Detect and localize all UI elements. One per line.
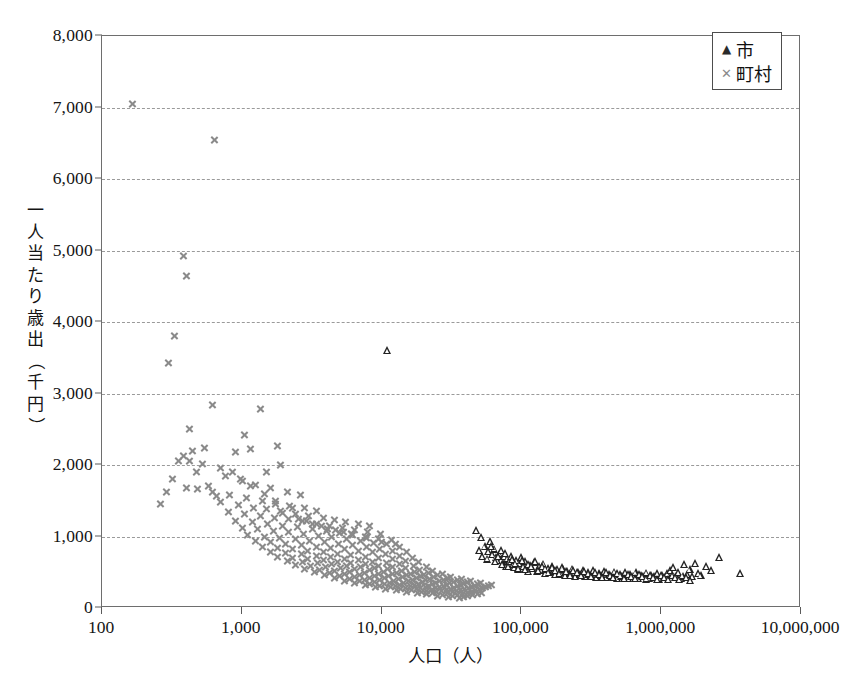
- data-point-shi: [516, 567, 524, 575]
- y-axis-title-char: ）: [24, 413, 46, 439]
- data-point-choson: [428, 566, 437, 575]
- data-point-shi: [667, 574, 675, 582]
- data-point-shi: [479, 560, 487, 568]
- data-point-choson: [360, 568, 369, 577]
- data-point-choson: [208, 400, 217, 409]
- y-axis-title-char: 歳: [22, 308, 48, 330]
- data-point-shi: [639, 580, 647, 588]
- data-point-shi: [669, 571, 677, 579]
- data-point-choson: [400, 583, 409, 592]
- data-point-choson: [258, 496, 267, 505]
- data-point-shi: [556, 576, 564, 584]
- data-point-choson: [383, 572, 392, 581]
- legend-label-choson: 町村: [735, 60, 772, 86]
- data-point-shi: [488, 558, 496, 566]
- data-point-choson: [300, 503, 309, 512]
- gridline: [102, 322, 799, 323]
- data-point-choson: [376, 537, 385, 546]
- data-point-shi: [664, 577, 672, 585]
- data-point-choson: [374, 561, 383, 570]
- data-point-choson: [408, 553, 417, 562]
- data-point-shi: [531, 565, 539, 573]
- data-point-choson: [168, 475, 177, 484]
- data-point-choson: [305, 536, 314, 545]
- data-point-shi: [632, 582, 640, 590]
- data-point-shi: [686, 573, 694, 581]
- data-point-choson: [281, 539, 290, 548]
- data-point-shi: [511, 571, 519, 579]
- data-point-shi: [572, 580, 580, 588]
- data-point-choson: [362, 543, 371, 552]
- x-tick-label: 100: [88, 617, 114, 638]
- data-point-shi: [526, 569, 534, 577]
- data-point-shi: [549, 571, 557, 579]
- data-point-shi: [498, 568, 506, 576]
- data-point-shi: [654, 583, 662, 591]
- data-point-choson: [234, 501, 243, 510]
- data-point-shi: [632, 576, 640, 584]
- data-point-shi: [502, 557, 510, 565]
- data-point-choson: [237, 476, 246, 485]
- y-axis: 01,0002,0003,0004,0005,0006,0007,0008,00…: [0, 0, 101, 675]
- y-axis-title-char: た: [22, 265, 48, 287]
- data-point-choson: [420, 582, 429, 591]
- data-point-shi: [681, 568, 689, 576]
- data-point-choson: [327, 560, 336, 569]
- data-point-choson: [318, 513, 327, 522]
- data-point-choson: [362, 533, 371, 542]
- data-point-shi: [582, 580, 590, 588]
- data-point-choson: [473, 580, 482, 589]
- data-point-choson: [473, 589, 482, 598]
- data-point-choson: [303, 546, 312, 555]
- data-point-choson: [179, 251, 188, 260]
- y-tick-label: 1,000: [53, 525, 93, 546]
- data-point-shi: [683, 578, 691, 586]
- data-point-choson: [432, 588, 441, 597]
- data-point-choson: [402, 587, 411, 596]
- data-point-choson: [193, 485, 202, 494]
- data-point-shi: [502, 570, 510, 578]
- data-point-choson: [355, 562, 364, 571]
- data-point-choson: [360, 575, 369, 584]
- data-point-choson: [403, 577, 412, 586]
- data-point-choson: [260, 489, 269, 498]
- data-point-choson: [162, 488, 171, 497]
- x-tick-label: 10,000,000: [761, 617, 840, 638]
- data-point-shi: [643, 583, 651, 591]
- legend-item-choson: ✕ 町村: [718, 61, 772, 85]
- data-point-choson: [323, 524, 332, 533]
- data-point-choson: [368, 548, 377, 557]
- data-point-choson: [281, 548, 290, 557]
- data-point-choson: [354, 520, 363, 529]
- data-point-choson: [414, 565, 423, 574]
- data-point-choson: [294, 514, 303, 523]
- data-point-shi: [564, 575, 572, 583]
- data-point-choson: [284, 515, 293, 524]
- data-point-choson: [360, 581, 369, 590]
- data-point-shi: [616, 578, 624, 586]
- data-point-choson: [337, 523, 346, 532]
- y-axis-title-char: 一: [22, 200, 48, 222]
- data-point-choson: [419, 570, 428, 579]
- data-point-shi: [697, 579, 705, 587]
- data-point-choson: [428, 589, 437, 598]
- data-point-shi: [656, 583, 664, 591]
- data-point-shi: [595, 577, 603, 585]
- data-point-choson: [320, 538, 329, 547]
- data-point-shi: [577, 578, 585, 586]
- legend-label-shi: 市: [735, 36, 754, 62]
- data-point-shi: [637, 579, 645, 587]
- data-point-choson: [408, 575, 417, 584]
- x-tick-label: 1,000: [221, 617, 260, 638]
- x-tick-mark: [241, 607, 242, 614]
- data-point-shi: [598, 579, 606, 587]
- y-tick-label: 2,000: [53, 454, 93, 475]
- data-point-choson: [185, 456, 194, 465]
- data-point-choson: [312, 551, 321, 560]
- data-point-shi: [678, 582, 686, 590]
- data-point-shi: [614, 577, 622, 585]
- data-point-choson: [330, 566, 339, 575]
- triangle-marker-icon: ▲: [718, 43, 735, 55]
- data-point-shi: [533, 575, 541, 583]
- data-point-choson: [456, 586, 465, 595]
